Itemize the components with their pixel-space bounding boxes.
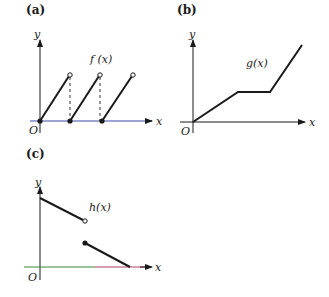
y-axis-label: y [33,28,41,41]
origin-label: O [28,271,37,284]
x-axis-label: x [155,261,162,274]
open-circle [131,73,135,77]
origin-label: O [181,125,190,138]
segment-2 [70,76,99,121]
h-segment-1 [40,198,83,220]
panel-b: (b) y x O g(x) [177,3,316,138]
origin-label: O [29,124,38,137]
panel-a-label: (a) [26,3,45,17]
y-axis-label: y [34,176,42,189]
open-circle [68,73,72,77]
function-label-h: h(x) [89,201,111,214]
filled-dot [37,118,42,123]
filled-dot [82,240,87,245]
function-label-g: g(x) [246,57,268,70]
filled-dot [67,118,72,123]
segment-1 [40,76,69,121]
panel-b-label: (b) [177,3,197,17]
h-segment-2 [85,243,130,267]
x-axis-label: x [156,115,163,128]
open-circle [83,219,87,223]
function-label-f: f (x) [89,53,112,66]
open-circle [98,73,102,77]
segment-3 [102,76,132,121]
panel-a: (a) y x O f (x) [26,3,163,137]
y-axis-label: y [188,28,196,41]
x-axis-label: x [309,116,316,129]
panel-c: (c) y x O h(x) [24,147,162,284]
panel-c-label: (c) [26,147,45,161]
filled-dot [99,118,104,123]
function-graphs-figure: (a) y x O f (x) (b) y x O g(x) [0,0,329,297]
